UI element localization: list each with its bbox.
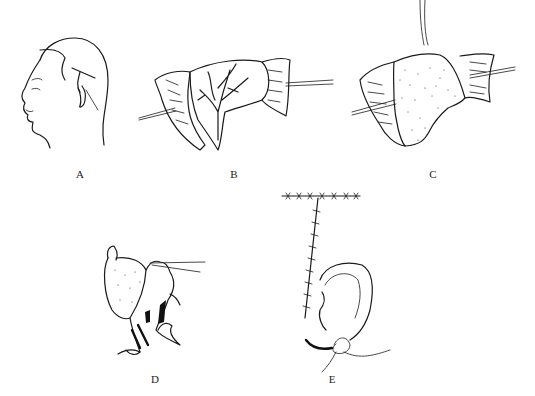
panel-label-e: E <box>329 373 336 385</box>
panel-a-drawing <box>22 38 108 148</box>
panel-label-a: A <box>76 168 84 180</box>
panel-e-drawing <box>282 193 390 372</box>
panel-b-drawing <box>139 59 333 150</box>
panel-d-drawing <box>105 246 205 354</box>
panel-c-drawing <box>352 0 515 146</box>
panel-label-d: D <box>151 373 159 385</box>
surgical-illustration <box>0 0 535 396</box>
panel-label-b: B <box>230 168 237 180</box>
panel-label-c: C <box>429 168 436 180</box>
